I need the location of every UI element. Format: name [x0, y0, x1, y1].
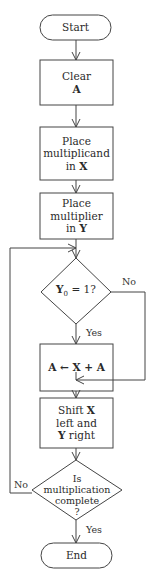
shift-line-1: Shift X: [58, 404, 95, 417]
start-node: Start: [40, 15, 111, 40]
place-y-line-2: multiplier: [50, 210, 102, 223]
clear-line-2: A: [72, 83, 80, 96]
decision-y0-label: Y0 = 1?: [56, 283, 96, 301]
place-multiplier-node: Place multiplier in Y: [40, 193, 113, 239]
decision-complete-node: Is multiplication complete ?: [32, 470, 122, 520]
shift-line-3: Y right: [58, 429, 95, 442]
end-node: End: [41, 543, 112, 568]
shift-line-2: left and: [56, 417, 97, 430]
place-x-var: X: [79, 160, 87, 172]
shift-node: Shift X left and Y right: [40, 398, 113, 448]
clear-a-node: Clear A: [40, 60, 113, 105]
shift-y-var: Y: [58, 429, 66, 441]
place-x-line-3: in X: [66, 160, 88, 173]
place-y-in: in: [66, 222, 79, 234]
place-x-in: in: [66, 160, 79, 172]
place-x-line-2: multiplicand: [43, 147, 110, 160]
clear-line-1: Clear: [62, 70, 91, 83]
add-label: A ← X + A: [48, 361, 105, 374]
decision-complete-line-4: ?: [74, 506, 79, 517]
end-label: End: [66, 549, 87, 562]
place-x-line-1: Place: [62, 135, 91, 148]
decision-y0-rest: = 1?: [68, 283, 96, 295]
place-y-line-3: in Y: [66, 222, 87, 235]
no-label-1: No: [122, 276, 136, 287]
decision-y0-node: Y0 = 1?: [41, 280, 111, 304]
yes-label-2: Yes: [86, 524, 102, 535]
decision-complete-line-1: Is: [73, 473, 82, 484]
shift-x-var: X: [87, 404, 95, 416]
no-label-2: No: [14, 479, 28, 490]
yes-label-1: Yes: [86, 327, 102, 338]
decision-complete-line-3: complete: [55, 495, 99, 506]
shift-word: Shift: [58, 404, 87, 416]
start-label: Start: [62, 21, 89, 34]
add-node: A ← X + A: [40, 344, 113, 391]
decision-complete-line-2: multiplication: [44, 484, 111, 495]
place-multiplicand-node: Place multiplicand in X: [40, 127, 113, 180]
decision-y0-base: Y: [56, 283, 64, 295]
place-y-line-1: Place: [62, 197, 91, 210]
shift-right-word: right: [66, 429, 95, 441]
place-y-var: Y: [79, 222, 87, 234]
